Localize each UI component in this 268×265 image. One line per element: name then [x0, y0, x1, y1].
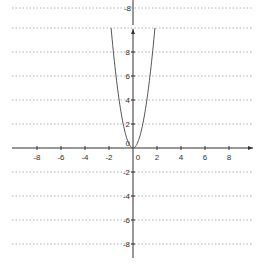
function-plot: -8 -8 -6 -4 -2 0 2 4 6 8 8 6 4 2 0 -2 -4…	[0, 0, 268, 265]
x-axis-arrow-icon	[248, 146, 253, 150]
y-axis	[131, 29, 135, 258]
y-tick-label: 4	[126, 96, 131, 105]
y-tick-label: -6	[123, 216, 131, 225]
x-tick-label: -6	[57, 153, 65, 162]
top-fragment: -8	[12, 0, 253, 25]
x-tick-label: -8	[33, 153, 41, 162]
x-tick-label: 6	[203, 153, 208, 162]
y-tick-label: -2	[123, 168, 131, 177]
y-tick-label: 2	[126, 120, 131, 129]
y-tick-label-origin: 0	[126, 139, 131, 148]
x-tick-label: 4	[179, 153, 184, 162]
x-tick-label: -4	[81, 153, 89, 162]
x-tick-label: 8	[227, 153, 232, 162]
y-tick-label: 6	[126, 72, 131, 81]
x-tick-label: 2	[155, 153, 160, 162]
y-tick-label: -8	[123, 240, 131, 249]
top-fragment-label: -8	[124, 4, 132, 13]
y-tick-label: -4	[123, 192, 131, 201]
y-tick-label: 8	[126, 48, 131, 57]
x-tick-label: -2	[105, 153, 113, 162]
y-axis-arrow-icon	[131, 29, 135, 34]
x-tick-label: 0	[136, 153, 141, 162]
